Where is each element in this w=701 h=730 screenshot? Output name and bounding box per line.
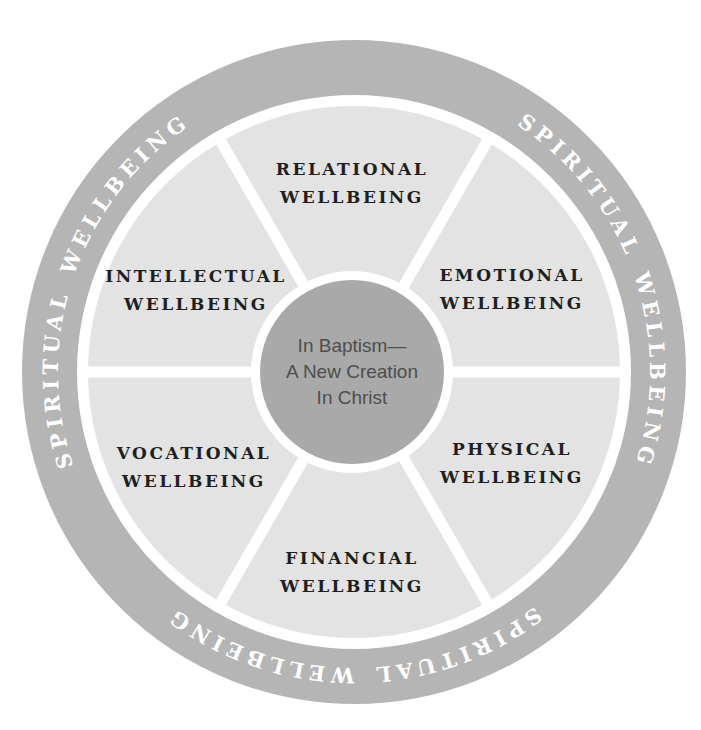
segment-label-physical: PHYSICAL WELLBEING xyxy=(440,435,584,491)
segment-label-emotional: EMOTIONAL WELLBEING xyxy=(439,261,584,317)
segment-emotional-line2: WELLBEING xyxy=(439,289,584,317)
segment-vocational-line2: WELLBEING xyxy=(117,467,272,495)
segment-physical-line2: WELLBEING xyxy=(440,463,584,491)
segment-relational-line2: WELLBEING xyxy=(276,183,428,211)
segment-intellectual-line1: INTELLECTUAL xyxy=(105,262,287,290)
segment-emotional-line1: EMOTIONAL xyxy=(439,261,584,289)
segment-intellectual-line2: WELLBEING xyxy=(105,290,287,318)
wellbeing-wheel: SPIRITUAL WELLBEING SPIRITUAL WELLBEING … xyxy=(0,0,701,730)
segment-physical-line1: PHYSICAL xyxy=(440,435,584,463)
segment-label-intellectual: INTELLECTUAL WELLBEING xyxy=(105,262,287,318)
segment-label-financial: FINANCIAL WELLBEING xyxy=(280,544,424,600)
center-label-line2: A New Creation xyxy=(286,359,418,385)
center-label-line1: In Baptism— xyxy=(286,333,418,359)
center-label: In Baptism— A New Creation In Christ xyxy=(286,333,418,411)
segment-financial-line1: FINANCIAL xyxy=(280,544,424,572)
segment-financial-line2: WELLBEING xyxy=(280,572,424,600)
segment-relational-line1: RELATIONAL xyxy=(276,155,428,183)
segment-label-vocational: VOCATIONAL WELLBEING xyxy=(117,439,272,495)
segment-vocational-line1: VOCATIONAL xyxy=(117,439,272,467)
center-label-line3: In Christ xyxy=(286,385,418,411)
segment-label-relational: RELATIONAL WELLBEING xyxy=(276,155,428,211)
